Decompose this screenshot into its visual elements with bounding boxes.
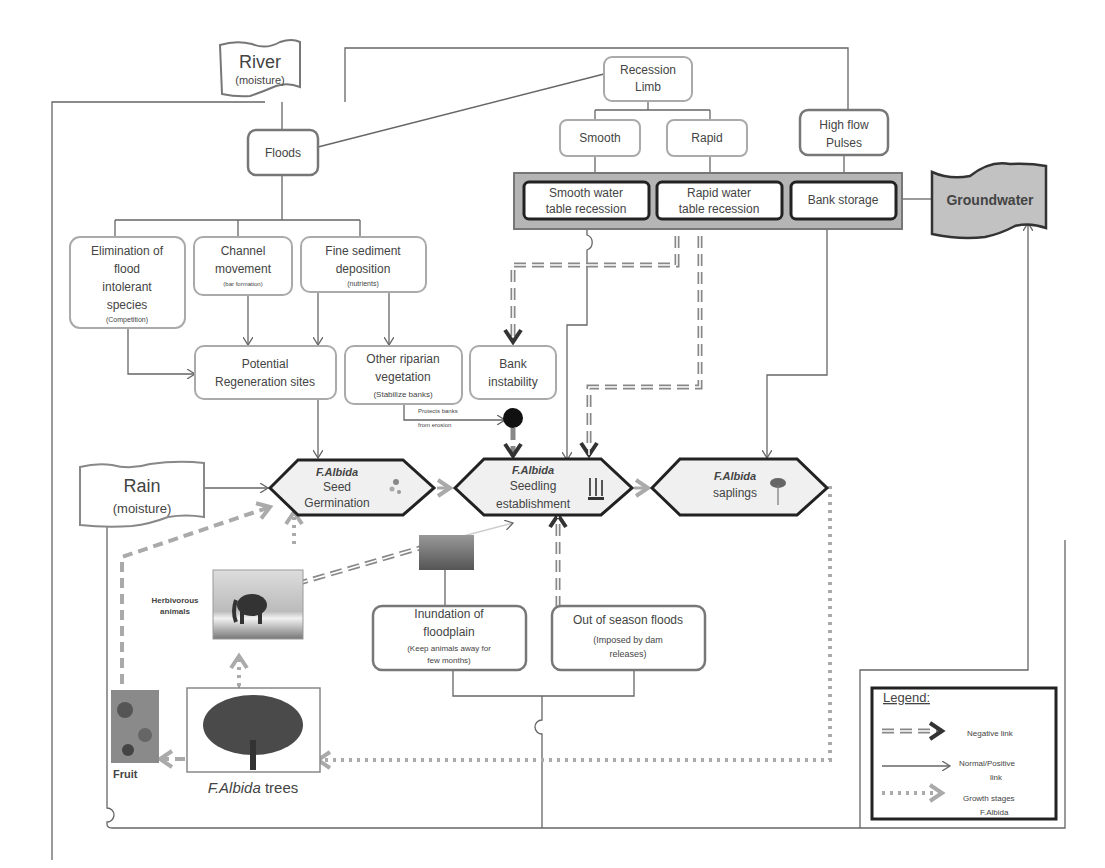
- svg-text:Rain: Rain: [123, 476, 160, 496]
- svg-text:intolerant: intolerant: [102, 280, 152, 294]
- protects-label-2: from erosion: [418, 422, 451, 428]
- svg-text:Groundwater: Groundwater: [946, 192, 1034, 208]
- flood-photo: [419, 535, 474, 570]
- svg-text:saplings: saplings: [713, 486, 757, 500]
- svg-text:flood: flood: [114, 262, 140, 276]
- bank-instability-node[interactable]: Bank instability: [470, 346, 556, 399]
- smooth-water-table-node[interactable]: Smooth water table recession: [524, 182, 649, 219]
- svg-text:Pulses: Pulses: [826, 136, 862, 150]
- herbivorous-label-2: animals: [160, 607, 190, 616]
- groundwater-node[interactable]: Groundwater: [932, 163, 1046, 238]
- floods-node[interactable]: Floods: [248, 130, 318, 175]
- inundation-node[interactable]: Inundation of floodplain (Keep animals a…: [373, 606, 526, 670]
- svg-text:instability: instability: [488, 375, 537, 389]
- elimination-node[interactable]: Elimination of flood intolerant species …: [70, 237, 185, 328]
- svg-text:Regeneration sites: Regeneration sites: [215, 375, 315, 389]
- svg-text:Negative link: Negative link: [967, 729, 1014, 738]
- river-title: River: [239, 52, 281, 72]
- svg-text:(Competition): (Competition): [106, 316, 148, 324]
- legend: Legend: Negative link Normal/Positive li…: [872, 688, 1056, 819]
- svg-text:floodplain: floodplain: [423, 625, 474, 639]
- river-sub: (moisture): [235, 74, 285, 86]
- svg-text:movement: movement: [215, 262, 272, 276]
- svg-text:Smooth: Smooth: [579, 131, 620, 145]
- svg-text:Germination: Germination: [304, 496, 369, 510]
- svg-text:deposition: deposition: [336, 262, 391, 276]
- svg-text:Other riparian: Other riparian: [366, 352, 439, 366]
- svg-text:F.Albida: F.Albida: [980, 808, 1009, 817]
- rain-node[interactable]: Rain (moisture): [80, 462, 204, 527]
- svg-text:Channel: Channel: [221, 244, 266, 258]
- svg-text:Bank storage: Bank storage: [808, 193, 879, 207]
- fruit-node[interactable]: Fruit: [111, 690, 159, 780]
- svg-text:releases): releases): [609, 649, 646, 659]
- smooth-node[interactable]: Smooth: [560, 120, 640, 156]
- svg-text:(nutrients): (nutrients): [347, 280, 379, 288]
- svg-text:Normal/Positive: Normal/Positive: [959, 759, 1016, 768]
- legend-title: Legend:: [883, 690, 930, 705]
- svg-text:Floods: Floods: [265, 146, 301, 160]
- rapid-node[interactable]: Rapid: [667, 120, 747, 156]
- protects-label-1: Protects banks: [418, 408, 458, 414]
- inhibitor-dot-icon: [503, 408, 523, 428]
- svg-text:establishment: establishment: [496, 497, 571, 511]
- recession-limb-node[interactable]: Recession Limb: [604, 57, 692, 101]
- svg-text:species: species: [107, 298, 148, 312]
- svg-text:Out of season floods: Out of season floods: [573, 613, 683, 627]
- svg-text:Fruit: Fruit: [113, 768, 138, 780]
- svg-text:vegetation: vegetation: [375, 370, 430, 384]
- other-riparian-node[interactable]: Other riparian vegetation (Stabilize ban…: [345, 346, 462, 404]
- svg-text:table recession: table recession: [679, 202, 760, 216]
- herbivorous-photo: [213, 570, 303, 639]
- svg-text:High flow: High flow: [819, 118, 869, 132]
- seed-germination-node[interactable]: F.Albida Seed Germination: [270, 460, 434, 515]
- svg-text:F.Albida: F.Albida: [316, 466, 358, 478]
- trees-node[interactable]: F.Albida trees: [187, 688, 320, 796]
- svg-text:Growth stages: Growth stages: [963, 794, 1015, 803]
- svg-text:F.Albida trees: F.Albida trees: [208, 779, 299, 796]
- svg-text:Fine sediment: Fine sediment: [325, 244, 401, 258]
- high-flow-node[interactable]: High flow Pulses: [800, 110, 888, 155]
- svg-text:Seedling: Seedling: [510, 479, 557, 493]
- svg-text:link: link: [990, 773, 1003, 782]
- svg-text:(Imposed by dam: (Imposed by dam: [593, 635, 663, 645]
- svg-text:Limb: Limb: [635, 80, 661, 94]
- svg-text:Recession: Recession: [620, 63, 676, 77]
- svg-text:(Stabilize banks): (Stabilize banks): [373, 390, 432, 399]
- fine-sediment-node[interactable]: Fine sediment deposition (nutrients): [301, 237, 426, 292]
- river-node[interactable]: River (moisture): [220, 40, 300, 96]
- svg-text:(moisture): (moisture): [113, 501, 172, 516]
- svg-text:F.Albida: F.Albida: [512, 464, 554, 476]
- saplings-node[interactable]: F.Albida saplings: [652, 459, 827, 515]
- bank-storage-node[interactable]: Bank storage: [791, 182, 896, 219]
- svg-text:(Keep animals away for: (Keep animals away for: [407, 644, 491, 653]
- svg-text:table recession: table recession: [546, 202, 627, 216]
- herbivorous-label-1: Herbivorous: [151, 596, 199, 605]
- svg-text:Rapid: Rapid: [691, 131, 722, 145]
- svg-text:Smooth water: Smooth water: [549, 186, 623, 200]
- svg-text:few months): few months): [427, 656, 471, 665]
- svg-text:Potential: Potential: [242, 357, 289, 371]
- svg-text:F.Albida: F.Albida: [714, 470, 756, 482]
- svg-text:Elimination of: Elimination of: [91, 244, 164, 258]
- svg-text:Seed: Seed: [323, 480, 351, 494]
- rapid-water-table-node[interactable]: Rapid water table recession: [657, 182, 782, 219]
- channel-movement-node[interactable]: Channel movement (bar formation): [194, 237, 292, 295]
- svg-text:Bank: Bank: [499, 357, 527, 371]
- water-table-panel: Smooth water table recession Rapid water…: [514, 173, 902, 229]
- out-of-season-floods-node[interactable]: Out of season floods (Imposed by dam rel…: [552, 606, 705, 670]
- svg-text:Inundation of: Inundation of: [414, 607, 484, 621]
- potential-regeneration-node[interactable]: Potential Regeneration sites: [195, 346, 336, 399]
- seedling-establishment-node[interactable]: F.Albida Seedling establishment: [455, 459, 632, 515]
- svg-text:(bar formation): (bar formation): [223, 281, 262, 287]
- svg-text:Rapid water: Rapid water: [687, 186, 751, 200]
